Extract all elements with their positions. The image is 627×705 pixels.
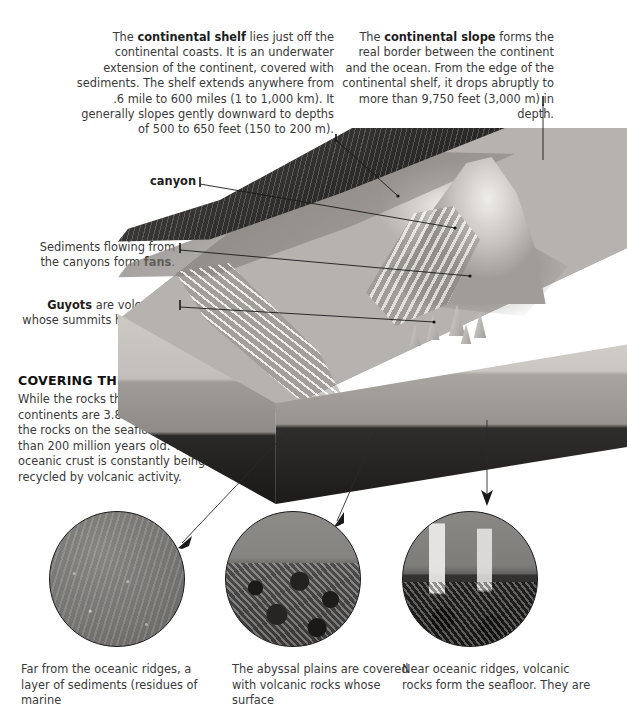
shelf-term: continental shelf — [137, 30, 245, 44]
slope-term: continental slope — [384, 30, 495, 44]
abyssal-plain-photo — [225, 511, 361, 647]
caption-oceanic-ridge: Near oceanic ridges, volcanic rocks form… — [402, 662, 602, 693]
oceanic-ridge-photo — [402, 511, 538, 647]
caption-abyssal-plain: The abyssal plains are covered with volc… — [232, 662, 418, 705]
guyots-term: Guyots — [47, 298, 92, 312]
sediment-layer-photo — [49, 511, 185, 647]
shelf-text-before: The — [113, 30, 138, 44]
slope-text-before: The — [359, 30, 384, 44]
caption-sediment-layer: Far from the oceanic ridges, a layer of … — [21, 662, 211, 705]
shelf-text-after: lies just off the continental coasts. It… — [77, 30, 334, 136]
ocean-floor-block-diagram — [118, 128, 627, 503]
callout-continental-slope: The continental slope forms the real bor… — [336, 30, 554, 122]
callout-continental-shelf: The continental shelf lies just off the … — [72, 30, 334, 138]
